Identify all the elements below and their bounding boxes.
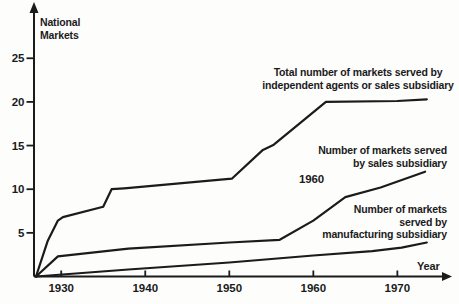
chart-figure: 51015202519301940195019601970 National M… (0, 0, 459, 304)
annotation-1960: 1960 (299, 173, 324, 186)
x-tick-label: 1940 (132, 282, 158, 294)
x-tick-label: 1970 (385, 282, 411, 294)
y-tick-label: 15 (12, 140, 25, 152)
y-tick-label: 20 (12, 96, 25, 108)
x-axis-title: Year (417, 260, 440, 273)
y-axis-arrow-icon (30, 2, 39, 13)
y-axis-title: National Markets (40, 16, 80, 41)
manufacturing-series-label: Number of markets served by manufacturin… (322, 203, 447, 241)
y-tick-label: 5 (18, 227, 25, 239)
x-tick-label: 1930 (48, 282, 74, 294)
x-tick-label: 1960 (301, 282, 327, 294)
series-line-manufacturing-subsidiary (36, 243, 427, 277)
y-tick-label: 25 (12, 52, 25, 64)
x-axis-arrow-icon (442, 272, 452, 281)
series-line-total (36, 99, 427, 276)
total-series-label: Total number of markets served by indepe… (258, 66, 458, 91)
x-tick-label: 1950 (216, 282, 242, 294)
sales-series-label: Number of markets served by sales subsid… (318, 144, 447, 169)
y-tick-label: 10 (12, 183, 25, 195)
